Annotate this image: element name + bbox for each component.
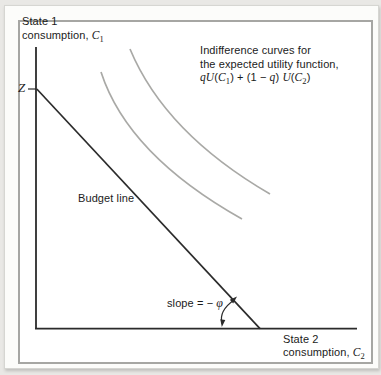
annotation-line2: the expected utility function, [200, 58, 339, 72]
arrowhead-down-icon [220, 319, 225, 327]
z-marker-label: Z [18, 81, 25, 95]
annotation-formula: qU(C1) + (1 − q) U(C2) [200, 71, 339, 89]
y-axis-label-line1: State 1 [22, 15, 104, 29]
y-axis-label: State 1 consumption, C1 [22, 15, 104, 46]
var-c2: C [353, 346, 361, 358]
y-axis-label-line2: consumption, C1 [22, 29, 104, 47]
screenshot-root: State 1 consumption, C1 Z Indifference c… [0, 0, 381, 375]
phi-symbol: φ [216, 296, 223, 310]
x-axis-label: State 2 consumption, C2 [283, 333, 365, 362]
x-axis-label-line1: State 2 [283, 333, 365, 346]
budget-line-label: Budget line [78, 192, 134, 206]
var-c1: C [92, 29, 100, 41]
budget-line [37, 89, 260, 329]
slope-label: slope = − φ [167, 297, 223, 311]
annotation-line1: Indifference curves for [200, 44, 339, 58]
x-axis-label-line2: consumption, C2 [283, 346, 365, 363]
indifference-annotation: Indifference curves for the expected uti… [200, 44, 339, 89]
